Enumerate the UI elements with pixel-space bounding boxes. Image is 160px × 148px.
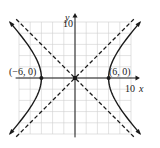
x-axis-label: x [138,83,144,94]
x-axis-arrow [135,76,139,81]
y-tick-label-10: 10 [63,18,73,29]
point-label-pos6: (6, 0) [109,66,131,78]
vertex-point-0 [39,76,43,80]
origin-point [73,76,77,80]
labels: y x 10 10 (−6, 0) (6, 0) [9,12,144,94]
y-axis-arrow [73,13,78,17]
point-label-neg6: (−6, 0) [9,66,36,78]
hyperbola-graph: y x 10 10 (−6, 0) (6, 0) [0,0,160,148]
x-tick-label-10: 10 [125,83,135,94]
